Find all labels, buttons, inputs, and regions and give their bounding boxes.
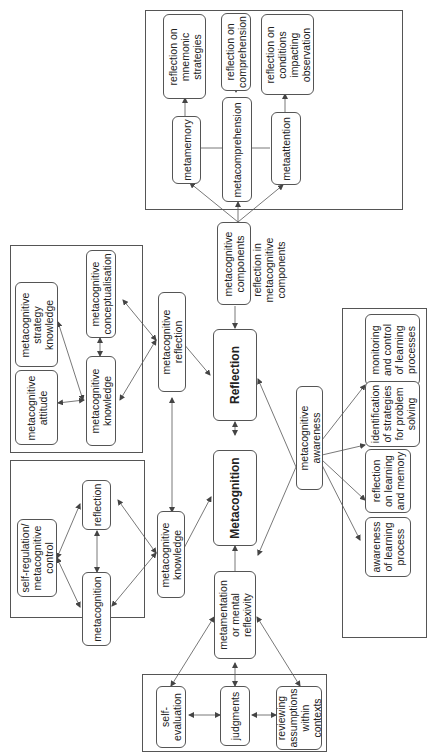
node-metacognitive-components: metacognitive components xyxy=(217,222,251,305)
node-identification-strategies: identification of strategies for problem… xyxy=(365,381,420,447)
node-reflection-mnemonic: reflection on mnemonic strategies xyxy=(163,14,206,99)
node-reflection-comprehension: reflection on comprehension xyxy=(221,13,251,91)
node-self-evaluation: self- evaluation xyxy=(156,686,186,748)
diagram-canvas: reflection on mnemonic strategies reflec… xyxy=(0,0,444,752)
node-mc-knowledge-upper: metacognitive knowledge xyxy=(86,356,116,446)
node-metamentation: metamentation or mental reflexivity xyxy=(214,571,256,659)
node-reflection-small: reflection xyxy=(82,480,111,530)
node-reviewing-assumptions: reviewing assumptions within contexts xyxy=(276,686,322,750)
node-monitoring-control: monitoring and control of learning proce… xyxy=(365,314,420,386)
node-mc-strategy-knowledge: metacognitive strategy knowledge xyxy=(15,282,58,367)
node-metacognition: Metacognition xyxy=(213,450,257,546)
node-mc-conceptualisation: metacognitive conceptualisation xyxy=(86,250,116,338)
node-metacognitive-knowledge: metacognitive knowledge xyxy=(157,511,185,598)
node-reflection: Reflection xyxy=(213,329,257,421)
node-reflection-learning-memory: reflection on learning and memory xyxy=(365,449,411,513)
node-reflection-conditions: reflection on conditions impacting obser… xyxy=(261,14,314,95)
node-mc-attitude: metacognitive attitude xyxy=(15,370,58,445)
node-metacognitive-reflection: metacognitive reflection xyxy=(158,292,186,392)
node-metamemory: metamemory xyxy=(172,116,201,184)
annotation-reflection-in-components: reflection in metacognitive components xyxy=(251,225,291,315)
node-metacomprehension: metacomprehension xyxy=(222,97,252,202)
node-metacognitive-awareness: metacognitive awareness xyxy=(296,386,323,490)
node-metaattention: metaattention xyxy=(271,112,301,185)
node-self-regulation: self-regulation/ metacognitive control xyxy=(17,519,57,597)
node-metacognition-small: metacognition xyxy=(82,572,111,646)
node-awareness-learning: awareness of learning process xyxy=(365,517,411,577)
node-judgments: judgments xyxy=(220,686,250,746)
